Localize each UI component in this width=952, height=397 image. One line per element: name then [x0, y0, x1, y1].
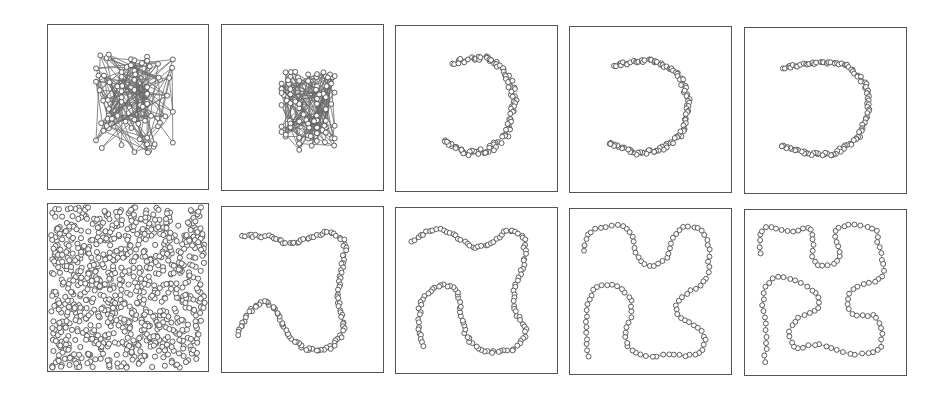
graph-plot: [222, 25, 383, 190]
graph-panel-r1c5: [744, 27, 907, 194]
graph-plot: [222, 207, 383, 372]
graph-plot: [745, 210, 906, 375]
nodes: [409, 226, 529, 355]
graph-panel-r1c2: [221, 24, 384, 191]
graph-plot: [745, 28, 906, 193]
nodes: [236, 229, 349, 353]
graph-panel-r2c4: [569, 208, 732, 375]
graph-panel-r2c3: [395, 207, 558, 374]
graph-plot: [396, 26, 557, 191]
edges: [238, 232, 346, 351]
graph-panel-r2c5: [744, 209, 907, 376]
edges: [760, 225, 884, 363]
graph-panel-r2c1: [47, 203, 209, 372]
graph-plot: [48, 25, 208, 189]
graph-plot: [48, 204, 208, 371]
nodes: [607, 57, 692, 157]
graph-panel-r1c1: [47, 24, 209, 190]
graph-plot: [396, 208, 557, 373]
nodes: [582, 222, 713, 359]
nodes: [442, 54, 519, 158]
graph-plot: [570, 27, 731, 192]
graph-panel-r2c2: [221, 206, 384, 373]
nodes: [49, 205, 208, 370]
nodes: [779, 60, 871, 158]
nodes: [757, 222, 886, 365]
graph-plot: [570, 209, 731, 374]
graph-panel-r1c3: [395, 25, 558, 192]
graph-panel-r1c4: [569, 26, 732, 193]
